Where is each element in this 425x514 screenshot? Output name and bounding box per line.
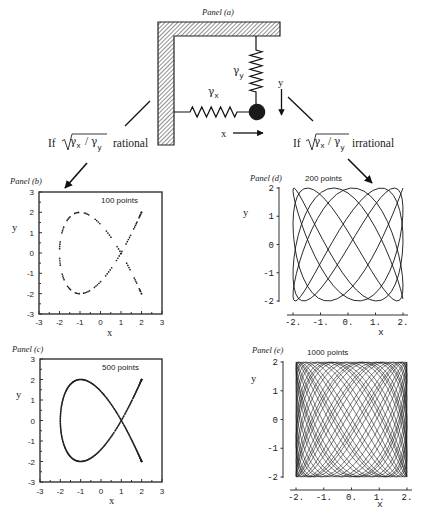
panel-c-xlabel: x	[109, 495, 115, 506]
data-point	[133, 397, 135, 399]
data-point	[60, 431, 62, 433]
y-tick-label: -3	[28, 478, 36, 487]
data-point	[106, 230, 108, 232]
trajectory-line	[293, 188, 403, 301]
data-point	[118, 416, 120, 418]
panel-c-axes: -3-2-101233210-1-2-3	[28, 355, 165, 496]
x-tick-label: 3	[160, 318, 165, 327]
spring-y	[250, 36, 262, 104]
data-point	[135, 281, 137, 283]
data-point	[62, 401, 64, 403]
data-point	[129, 269, 131, 271]
y-tick-label: 2	[269, 184, 274, 194]
data-point	[105, 396, 107, 398]
data-point	[113, 407, 115, 409]
data-point	[125, 412, 127, 414]
x-tick-label: 2.	[398, 318, 409, 328]
data-point	[111, 435, 113, 437]
data-point	[59, 248, 61, 250]
data-point	[84, 212, 86, 214]
data-point	[123, 424, 125, 426]
x-tick-label: 2	[139, 487, 144, 496]
data-point	[89, 458, 91, 460]
y-tick-label: 0	[273, 416, 278, 426]
data-point	[62, 230, 64, 232]
data-point	[116, 427, 118, 429]
data-point	[112, 433, 114, 435]
data-point	[127, 408, 129, 410]
y-tick-label: 1	[30, 229, 35, 238]
condition-prefix: If	[293, 137, 301, 149]
data-point	[61, 232, 63, 234]
y-tick-label: -1	[28, 437, 36, 446]
data-point	[133, 444, 135, 446]
ratio-denominator-subscript: y	[341, 143, 345, 152]
data-point	[130, 402, 132, 404]
data-point	[126, 431, 128, 433]
x-tick-label: -2.	[285, 318, 301, 328]
data-point	[108, 271, 110, 273]
data-point	[134, 226, 136, 228]
data-point	[131, 400, 133, 402]
data-point	[128, 267, 130, 269]
data-point	[103, 446, 105, 448]
panel-c-title: Panel (c)	[11, 344, 44, 354]
lissajous-oscillator-figure: Panel (a) γ y γ x x y If γ x / γ y ratio…	[0, 0, 425, 514]
x-tick-label: 1.	[374, 493, 385, 503]
data-point	[98, 282, 100, 284]
data-point	[61, 437, 63, 439]
y-tick-label: -1	[27, 269, 35, 278]
ratio-denominator-symbol: γ	[334, 135, 340, 147]
data-point	[120, 253, 122, 255]
data-point	[59, 258, 61, 260]
condition-rational: If γ x / γ y rational	[48, 134, 148, 152]
data-point	[109, 234, 111, 236]
panel-b-xlabel: x	[107, 327, 113, 338]
data-point	[126, 410, 128, 412]
data-point	[121, 419, 123, 421]
data-point	[86, 380, 88, 382]
panel-d-xlabel: x	[378, 327, 384, 338]
data-point	[111, 267, 113, 269]
data-point	[90, 457, 92, 459]
data-point	[67, 386, 69, 388]
data-point	[117, 414, 119, 416]
panel-b-axes: -3-2-101233210-1-2-3	[27, 188, 165, 327]
data-point	[141, 379, 143, 381]
data-point	[87, 459, 89, 461]
data-point	[136, 389, 138, 391]
data-point	[60, 417, 62, 419]
data-point	[120, 421, 122, 423]
wall-support	[158, 22, 280, 145]
data-point	[83, 379, 85, 381]
data-point	[88, 381, 90, 383]
data-point	[75, 292, 77, 294]
data-point	[78, 212, 80, 214]
data-point	[129, 405, 131, 407]
panel-c-annotation: 500 points	[102, 363, 139, 372]
data-point	[78, 293, 80, 295]
panel-a-title: Panel (a)	[201, 7, 234, 17]
y-tick-label: 0	[31, 417, 36, 426]
data-point	[68, 385, 70, 387]
panel-b-annotation: 100 points	[101, 196, 138, 205]
y-tick-label: -3	[27, 310, 35, 319]
data-point	[129, 237, 131, 239]
data-point	[66, 389, 68, 391]
panel-e-trajectory	[296, 362, 407, 477]
ratio-denominator-subscript: y	[98, 143, 102, 152]
data-point	[135, 391, 137, 393]
spring-x	[174, 107, 249, 117]
data-point	[136, 221, 138, 223]
ratio-numerator-symbol: γ	[314, 135, 320, 147]
arrow-to-panel-d-icon	[348, 159, 372, 183]
data-point	[125, 428, 127, 430]
data-point	[97, 221, 99, 223]
x-tick-label: 3	[160, 487, 165, 496]
data-point	[141, 293, 143, 295]
x-tick-label: 1	[119, 318, 124, 327]
x-tick-label: -1	[76, 318, 84, 327]
panel-b-ylabel: y	[12, 222, 18, 233]
data-point	[138, 454, 140, 456]
data-point	[141, 212, 143, 214]
